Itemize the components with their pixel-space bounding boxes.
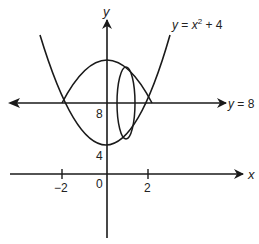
tick-label-x-2: 2 xyxy=(144,181,151,195)
x-axis-label: x xyxy=(247,167,255,182)
parabola-label: y = x2 + 4 xyxy=(171,17,223,32)
tick-label-y-4: 4 xyxy=(96,149,103,163)
tick-label-y-8: 8 xyxy=(96,107,103,121)
tick-label-x-0: 0 xyxy=(96,177,103,191)
y-axis-label: y xyxy=(102,4,111,19)
parabola-curve xyxy=(40,35,170,145)
line-y8-label: y = 8 xyxy=(227,97,255,111)
diagram-canvas: y x −2 0 2 4 8 y = x2 + 4 y = 8 xyxy=(0,0,259,244)
tick-label-x-neg2: −2 xyxy=(54,181,68,195)
